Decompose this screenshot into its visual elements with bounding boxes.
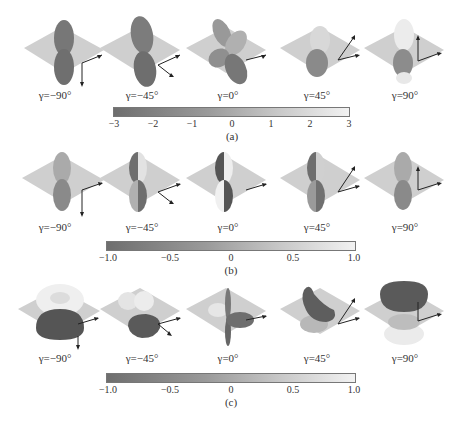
gamma-label: γ=0° [183,221,273,233]
gamma-label: γ=90° [360,221,450,233]
gamma-label: γ=0° [183,352,273,364]
panel-label-b: (b) [225,264,238,276]
gamma-label: γ=90° [360,89,450,101]
gamma-label: γ=−45° [97,89,187,101]
gamma-label: γ=−90° [10,221,100,233]
colorbar-tick: 0 [229,252,234,263]
colorbar-b [106,241,356,251]
colorbar-tick: −1 [187,118,198,129]
gamma-label: γ=−90° [10,352,100,364]
radiation-pattern-b-gamma-90 [360,140,450,250]
gamma-label: γ=−90° [10,89,100,101]
colorbar-tick: 0.5 [287,252,300,263]
radiation-pattern-c-gamma-45 [272,276,362,386]
colorbar-tick: −0.5 [161,384,179,395]
gamma-label: γ=−45° [97,221,187,233]
colorbar-tick: −0.5 [161,252,179,263]
radiation-pattern-c-gamma-90 [360,276,450,386]
radiation-pattern-b-gamma-0 [184,140,274,250]
gamma-label: γ=45° [272,89,362,101]
colorbar-tick: 0.5 [287,384,300,395]
colorbar-tick: 0 [229,384,234,395]
gamma-label: γ=90° [360,352,450,364]
colorbar-tick: −2 [148,118,159,129]
colorbar-tick: 1.0 [348,384,361,395]
colorbar-a [113,107,350,117]
colorbar-tick: 1 [269,118,274,129]
colorbar-tick: −3 [109,118,120,129]
colorbar-tick: 0 [230,118,235,129]
radiation-pattern-c-gamma-0 [184,276,274,386]
gamma-label: γ=45° [272,221,362,233]
gamma-label: γ=0° [183,89,273,101]
gamma-label: γ=45° [272,352,362,364]
radiation-pattern-b-gamma-neg45 [98,140,188,250]
colorbar-c [106,373,356,383]
colorbar-tick: −1.0 [99,252,117,263]
panel-label-c: (c) [225,396,237,408]
radiation-pattern-b-gamma-45 [272,140,362,250]
colorbar-tick: −1.0 [99,384,117,395]
colorbar-tick: 3 [347,118,352,129]
colorbar-tick: 1.0 [348,252,361,263]
radiation-pattern-c-gamma-neg90 [8,276,98,386]
radiation-pattern-b-gamma-neg90 [12,140,102,250]
gamma-label: γ=−45° [97,352,187,364]
radiation-pattern-c-gamma-neg45 [98,276,188,386]
colorbar-tick: 2 [308,118,313,129]
